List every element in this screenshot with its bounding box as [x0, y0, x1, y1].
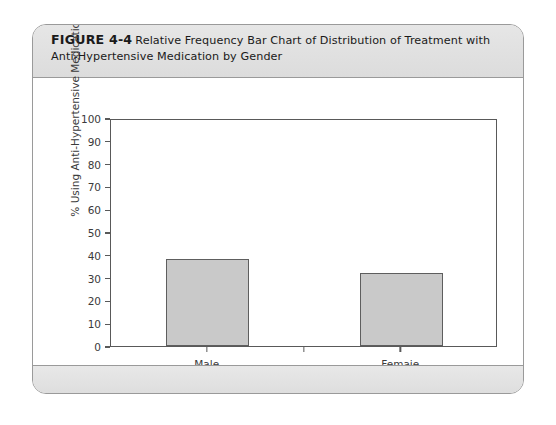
y-tick-label: 90	[88, 135, 101, 149]
x-tick-mark-center	[303, 347, 304, 352]
y-tick-label: 70	[88, 180, 101, 194]
plot-frame	[110, 119, 497, 347]
x-tick-mark	[400, 347, 401, 352]
x-tick-mark	[206, 347, 207, 352]
y-axis-ticks: 0102030405060708090100	[33, 119, 110, 347]
bar	[166, 259, 249, 346]
y-tick-label: 100	[81, 112, 101, 126]
figure-card: FIGURE 4-4Relative Frequency Bar Chart o…	[32, 24, 524, 394]
chart-plot-region: % Using Anti-Hypertensive Medication 010…	[33, 78, 524, 367]
figure-label: FIGURE 4-4	[51, 32, 132, 47]
y-tick-label: 80	[88, 158, 101, 172]
y-tick-label: 40	[88, 249, 101, 263]
y-tick-label: 60	[88, 203, 101, 217]
y-tick-label: 20	[88, 294, 101, 308]
bar	[360, 273, 443, 346]
figure-caption: FIGURE 4-4Relative Frequency Bar Chart o…	[51, 32, 507, 64]
figure-footer	[33, 365, 523, 393]
y-tick-label: 50	[88, 226, 101, 240]
figure-header: FIGURE 4-4Relative Frequency Bar Chart o…	[33, 25, 523, 78]
y-tick-label: 0	[94, 340, 101, 354]
y-tick-label: 10	[88, 317, 101, 331]
y-tick-label: 30	[88, 272, 101, 286]
